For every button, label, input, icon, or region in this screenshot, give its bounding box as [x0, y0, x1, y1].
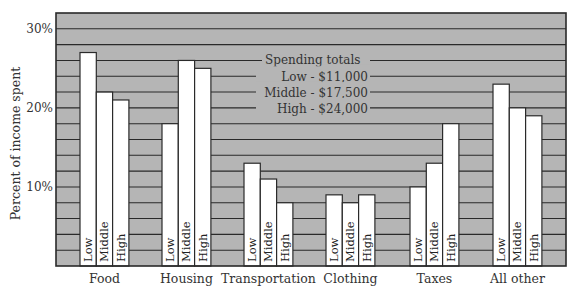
bar-label: Low — [327, 237, 341, 262]
bar-label: Low — [163, 237, 177, 262]
x-tick-label: Taxes — [417, 271, 453, 286]
bar-label: Low — [81, 237, 95, 262]
bar-label: Middle — [343, 221, 357, 262]
x-tick-label: Food — [89, 271, 120, 286]
legend-entry-high: High - $24,000 — [277, 102, 368, 116]
bar-label: High — [360, 233, 374, 262]
y-tick-label: 30% — [26, 22, 53, 36]
x-tick-label: All other — [489, 271, 545, 286]
bar-label: Middle — [510, 221, 524, 262]
bar-label: High — [196, 233, 210, 262]
x-tick-label: Clothing — [323, 271, 377, 286]
bar-label: High — [278, 233, 292, 262]
bar-label: High — [114, 233, 128, 262]
chart: Spending totals Low - $11,000 Middle - $… — [0, 0, 578, 299]
x-tick-label: Housing — [160, 271, 213, 286]
bar-label: Low — [245, 237, 259, 262]
x-tick-label: Transportation — [221, 271, 316, 286]
legend: Spending totals Low - $11,000 Middle - $… — [256, 48, 370, 115]
bar-label: Low — [411, 237, 425, 262]
bar-label: Low — [494, 237, 508, 262]
y-tick-label: 10% — [26, 180, 53, 194]
bar-label: Middle — [261, 221, 275, 262]
y-axis-ticks: 10%20%30% — [26, 22, 53, 194]
bar-label: Middle — [427, 221, 441, 262]
bar-label: Middle — [179, 221, 193, 262]
y-axis-label: Percent of income spent — [8, 67, 23, 220]
legend-title: Spending totals — [265, 53, 361, 67]
bar-food-low — [80, 53, 96, 266]
bar-label: Middle — [97, 221, 111, 262]
x-axis-categories: FoodHousingTransportationClothingTaxesAl… — [89, 271, 545, 286]
y-tick-label: 20% — [26, 101, 53, 115]
bar-label: High — [444, 233, 458, 262]
bar-label: High — [527, 233, 541, 262]
